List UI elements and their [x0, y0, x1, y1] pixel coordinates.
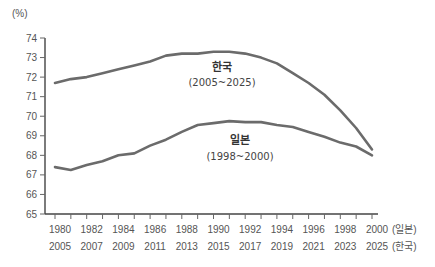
japan-period-label: (1998~2000) — [206, 151, 273, 162]
x-tick-label: 2023 — [334, 241, 357, 252]
x-tick-label: 1996 — [302, 224, 325, 235]
korea-series-label: 한국 — [212, 60, 232, 74]
x-axis: 1980198219841986198819901992199419961998… — [45, 214, 417, 252]
y-axis-unit-label: (%) — [12, 8, 28, 19]
x-tick-label: 2013 — [176, 241, 199, 252]
x-tick-label: 1990 — [207, 224, 230, 235]
x-tick-label: 2000 — [366, 224, 389, 235]
y-tick-label: 69 — [26, 130, 38, 141]
x-tick-label: 1988 — [176, 224, 199, 235]
y-tick-label: 73 — [26, 52, 38, 63]
y-tick-label: 72 — [26, 72, 38, 83]
x-tick-label: 1998 — [334, 224, 357, 235]
x-tick-label: 1982 — [81, 224, 104, 235]
y-tick-label: 71 — [26, 91, 38, 102]
x-tick-label: 1984 — [112, 224, 135, 235]
x-tick-label: 2021 — [302, 241, 325, 252]
x-tick-label: 1980 — [49, 224, 72, 235]
y-tick-label: 70 — [26, 111, 38, 122]
y-axis: 65666768697071727374 — [26, 33, 45, 220]
x-row-suffix: (한국) — [392, 241, 417, 252]
x-tick-label: 2007 — [81, 241, 104, 252]
x-tick-label: 2005 — [49, 241, 72, 252]
y-tick-label: 66 — [26, 189, 38, 200]
y-tick-label: 68 — [26, 150, 38, 161]
x-tick-label: 2025 — [366, 241, 389, 252]
population-ratio-line-chart: (%) 65666768697071727374 198019821984198… — [0, 0, 435, 267]
x-tick-label: 1986 — [144, 224, 167, 235]
y-tick-label: 74 — [26, 33, 38, 44]
x-tick-label: 1992 — [239, 224, 262, 235]
japan-series-label: 일본 — [230, 133, 250, 147]
x-tick-label: 2015 — [207, 241, 230, 252]
x-tick-label: 2009 — [112, 241, 135, 252]
x-tick-label: 2017 — [239, 241, 262, 252]
y-tick-label: 67 — [26, 169, 38, 180]
y-tick-label: 65 — [26, 209, 38, 220]
x-row-suffix: (일본) — [392, 224, 417, 235]
korea-period-label: (2005~2025) — [188, 77, 255, 88]
x-tick-label: 2011 — [144, 241, 166, 252]
x-tick-label: 1994 — [271, 224, 294, 235]
japan-line — [55, 121, 372, 170]
x-tick-label: 2019 — [271, 241, 294, 252]
